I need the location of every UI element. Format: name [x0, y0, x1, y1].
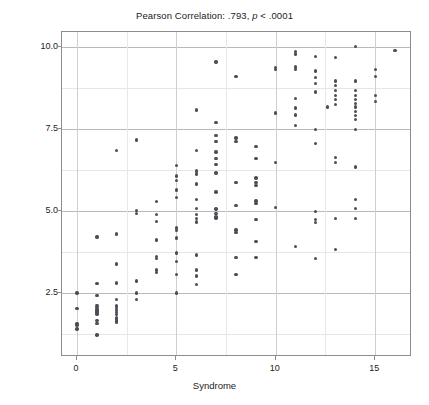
data-point: [354, 102, 357, 105]
data-point: [254, 184, 257, 187]
data-point: [354, 98, 357, 101]
gridline-vertical: [176, 32, 177, 355]
data-point: [374, 68, 377, 71]
x-tick-label: 15: [359, 363, 389, 373]
chart-title-pvalue: < .0001: [260, 10, 293, 21]
data-point: [314, 82, 317, 85]
data-point: [334, 248, 337, 251]
data-point: [354, 105, 357, 108]
data-point: [254, 256, 257, 259]
data-point: [234, 204, 237, 207]
data-point: [135, 212, 138, 215]
data-point: [175, 236, 178, 239]
data-point: [175, 251, 178, 254]
data-point: [195, 220, 198, 223]
data-point: [214, 121, 217, 124]
data-point: [334, 94, 337, 97]
gridline-horizontal-minor: [62, 88, 410, 89]
data-point: [195, 283, 198, 286]
data-point: [354, 165, 357, 168]
scatter-plot-figure: Pearson Correlation: .793, p < .0001 2.5…: [0, 0, 429, 405]
data-point: [294, 245, 297, 248]
x-tick-label: 10: [260, 363, 290, 373]
x-tick-mark: [275, 356, 276, 360]
data-point: [374, 75, 377, 78]
data-point: [195, 198, 198, 201]
data-point: [195, 253, 198, 256]
chart-title: Pearson Correlation: .793, p < .0001: [0, 10, 429, 21]
data-point: [175, 164, 178, 167]
y-axis-ticks: 2.55.07.510.0: [20, 31, 58, 356]
data-point: [254, 176, 257, 179]
data-point: [155, 257, 158, 260]
data-point: [195, 213, 198, 216]
x-tick-mark: [76, 356, 77, 360]
gridline-vertical: [375, 32, 376, 355]
data-point: [115, 262, 118, 265]
chart-title-lead: Pearson Correlation: .793,: [136, 10, 250, 21]
data-point: [175, 260, 178, 263]
data-point: [294, 68, 297, 71]
data-point: [314, 69, 317, 72]
data-point: [95, 312, 98, 315]
chart-title-p-symbol: p: [252, 10, 257, 21]
data-point: [175, 196, 178, 199]
data-point: [75, 327, 78, 330]
data-point: [354, 89, 357, 92]
data-point: [135, 279, 138, 282]
data-point: [314, 221, 317, 224]
data-point: [95, 294, 98, 297]
x-axis-ticks: 051015: [61, 356, 411, 382]
data-point: [155, 213, 158, 216]
data-point: [214, 157, 217, 160]
data-point: [135, 138, 138, 141]
data-point: [334, 103, 337, 106]
data-point: [314, 55, 317, 58]
data-point: [334, 161, 337, 164]
data-point: [393, 49, 396, 52]
data-point: [274, 111, 277, 114]
data-point: [254, 240, 257, 243]
data-point: [115, 232, 118, 235]
data-point: [354, 45, 357, 48]
data-point: [254, 218, 257, 221]
data-point: [175, 229, 178, 232]
data-point: [294, 97, 297, 100]
data-point: [254, 202, 257, 205]
data-point: [254, 157, 257, 160]
data-point: [135, 298, 138, 301]
data-point: [314, 142, 317, 145]
gridline-vertical-minor: [325, 32, 326, 355]
data-point: [326, 105, 329, 108]
data-point: [155, 238, 158, 241]
data-point: [274, 68, 277, 71]
data-point: [354, 217, 357, 220]
gridline-horizontal: [62, 293, 410, 294]
data-point: [214, 150, 217, 153]
y-tick-label: 10.0: [24, 41, 58, 51]
data-point: [214, 163, 217, 166]
data-point: [95, 282, 98, 285]
data-point: [354, 94, 357, 97]
data-point: [75, 291, 78, 294]
data-point: [214, 216, 217, 219]
data-point: [155, 271, 158, 274]
data-point: [214, 60, 217, 63]
data-point: [354, 198, 357, 201]
data-point: [214, 134, 217, 137]
data-point: [334, 98, 337, 101]
data-point: [195, 149, 198, 152]
data-point: [195, 108, 198, 111]
data-point: [234, 231, 237, 234]
data-point: [75, 323, 78, 326]
data-point: [195, 207, 198, 210]
plot-inner-canvas: [62, 32, 410, 355]
data-point: [195, 274, 198, 277]
data-point: [115, 149, 118, 152]
y-tick-label: 7.5: [24, 123, 58, 133]
data-point: [115, 281, 118, 284]
data-point: [234, 273, 237, 276]
data-point: [354, 118, 357, 121]
data-point: [334, 89, 337, 92]
data-point: [95, 322, 98, 325]
